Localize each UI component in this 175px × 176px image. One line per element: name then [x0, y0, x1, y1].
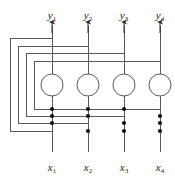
output-label-3: y3: [120, 10, 128, 21]
input-label-2-subscript: 2: [89, 167, 93, 175]
input-label-3-subscript: 3: [125, 167, 129, 175]
output-label-1: y1: [48, 10, 56, 21]
input-label-2: x2: [84, 162, 92, 173]
connection-dot-9: [158, 114, 162, 118]
output-label-2: y2: [84, 10, 92, 21]
network-svg: [0, 0, 175, 176]
input-label-4-subscript: 4: [161, 167, 165, 175]
connection-dot-2: [122, 129, 126, 133]
input-label-1-subscript: 1: [53, 167, 57, 175]
output-label-4-subscript: 4: [161, 15, 165, 23]
output-label-3-subscript: 3: [125, 15, 129, 23]
connection-dot-4: [50, 121, 54, 125]
neuron-1[interactable]: [41, 74, 63, 96]
output-label-4: y4: [156, 10, 164, 21]
connection-dot-7: [50, 114, 54, 118]
connection-dots-group: [50, 107, 162, 133]
output-arrows-group: [52, 22, 160, 33]
connection-dot-8: [86, 114, 90, 118]
connection-dot-11: [86, 107, 90, 111]
input-label-3: x3: [120, 162, 128, 173]
connection-dot-3: [158, 129, 162, 133]
network-diagram: y1y2y3y4 x1x2x3x4: [0, 0, 175, 176]
connection-dot-1: [86, 129, 90, 133]
neuron-4[interactable]: [149, 74, 171, 96]
input-label-4: x4: [156, 162, 164, 173]
neuron-3[interactable]: [113, 74, 135, 96]
connection-dot-5: [122, 121, 126, 125]
neurons-group: [41, 74, 171, 96]
output-label-2-subscript: 2: [89, 15, 93, 23]
connection-dot-12: [122, 107, 126, 111]
connection-dot-6: [158, 121, 162, 125]
output-label-1-subscript: 1: [53, 15, 57, 23]
input-label-1: x1: [48, 162, 56, 173]
connection-dot-10: [50, 107, 54, 111]
neuron-2[interactable]: [77, 74, 99, 96]
signal-columns-group: [52, 26, 160, 152]
